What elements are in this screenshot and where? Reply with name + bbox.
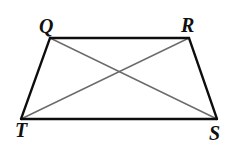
vertex-label-r: R (181, 15, 194, 35)
geometry-figure: Q R S T (0, 0, 240, 150)
vertex-label-t: T (15, 120, 27, 140)
trapezoid-diagram-canvas (0, 0, 240, 150)
vertex-label-q: Q (39, 16, 53, 36)
vertex-label-s: S (209, 123, 220, 143)
